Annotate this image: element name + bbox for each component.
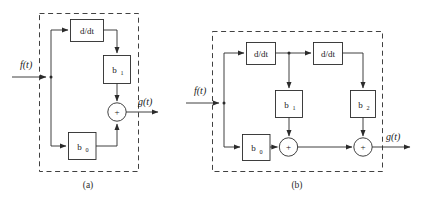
panel-b-wire-ddt2-to-b2 (343, 53, 364, 88)
panel-a: f(t) d/dt b 1 + g(t) (12, 14, 158, 192)
block-diagram-figure: f(t) d/dt b 1 + g(t) (0, 0, 424, 201)
panel-b-caption: (b) (291, 180, 302, 191)
panel-b: f(t) d/dt d/dt b 1 (186, 32, 410, 192)
block-b0-a-subscript: 0 (86, 146, 89, 153)
panel-a-output-label: g(t) (138, 96, 153, 108)
block-b0-b-subscript: 0 (260, 148, 263, 155)
block-b0-b-label: b (251, 143, 256, 153)
block-ddt-b1-label: d/dt (254, 49, 269, 59)
block-b2-b-subscript: 2 (367, 104, 370, 111)
panel-b-output-label: g(t) (386, 131, 401, 143)
block-b1-a (104, 56, 131, 84)
block-b2-b (351, 91, 376, 118)
block-b1-b-subscript: 1 (293, 104, 296, 111)
block-b1-b-label: b (284, 100, 289, 110)
block-b0-a-label: b (77, 142, 82, 152)
block-b0-a (69, 133, 97, 160)
figure-canvas: f(t) d/dt b 1 + g(t) (0, 0, 424, 201)
block-b2-b-label: b (358, 100, 363, 110)
block-b0-b (243, 135, 271, 161)
block-ddt-b2-label: d/dt (321, 49, 336, 59)
summer-b1-label: + (286, 142, 291, 152)
panel-a-wire-ddt-to-b1 (104, 30, 118, 53)
block-b1-b (276, 91, 303, 118)
panel-a-wire-b0-to-sum (96, 124, 117, 146)
summer-a-label: + (114, 107, 119, 117)
block-b1-a-subscript: 1 (121, 69, 124, 76)
panel-a-caption: (a) (83, 180, 94, 191)
panel-b-input-label: f(t) (194, 85, 207, 97)
block-b1-a-label: b (112, 65, 117, 75)
block-ddt-a-label: d/dt (80, 26, 95, 36)
summer-b2-label: + (360, 142, 365, 152)
panel-a-input-label: f(t) (20, 59, 33, 71)
